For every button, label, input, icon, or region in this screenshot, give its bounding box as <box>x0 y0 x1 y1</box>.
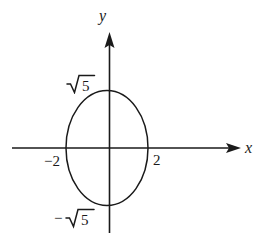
x-axis-label: x <box>245 140 252 156</box>
y-axis-label: y <box>99 8 106 24</box>
radical-sqrt5-glyph: 5 <box>66 72 96 94</box>
y-intercept-positive-label: 5 <box>66 72 96 97</box>
x-intercept-negative-label: −2 <box>44 154 60 169</box>
radicand-value: 5 <box>82 78 90 94</box>
radical-sign-icon <box>67 76 95 93</box>
x-intercept-positive-label: 2 <box>153 153 161 168</box>
ellipse-graph-figure: y x −2 2 5 − 5 <box>0 0 263 244</box>
minus-sign-glyph: − <box>54 210 62 226</box>
radical-neg-sqrt5-glyph: − 5 <box>54 206 98 230</box>
y-intercept-negative-label: − 5 <box>54 206 98 233</box>
plot-canvas <box>0 0 263 244</box>
radicand-value: 5 <box>81 212 89 228</box>
radical-sign-icon <box>66 210 94 227</box>
